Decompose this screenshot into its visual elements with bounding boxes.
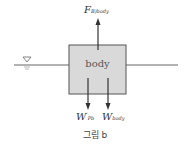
body-label: body [69,58,126,69]
buoyancy-symbol: F [84,4,91,15]
body-weight-subscript: body [112,115,124,121]
fluid-weight-label: W′Pb [76,111,94,122]
body-weight-label: Wbody [102,111,125,122]
buoyancy-subscript: B)body [91,8,109,14]
body-box [69,45,126,94]
free-surface-icon [23,57,31,69]
body-weight-symbol: W [102,111,112,122]
buoyancy-label: FB)body [84,4,109,15]
figure-caption: 그림 b [0,128,190,141]
fluid-weight-symbol: W [76,111,86,122]
diagram-canvas [0,0,190,147]
fluid-weight-subscript: Pb [88,115,95,121]
